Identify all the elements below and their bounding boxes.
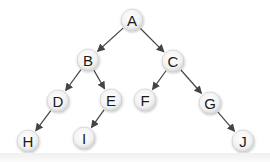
node-label: C — [168, 53, 179, 70]
tree-node-I: I — [73, 127, 95, 149]
tree-node-A: A — [121, 9, 143, 31]
floor-shade — [0, 153, 270, 162]
node-label: F — [140, 92, 149, 109]
tree-node-G: G — [199, 92, 221, 114]
tree-diagram: ABCDEFGHIJ — [0, 0, 270, 162]
edge-A-C — [140, 28, 163, 51]
tree-node-H: H — [17, 130, 39, 152]
edge-E-I — [92, 110, 105, 128]
tree-node-F: F — [134, 89, 156, 111]
nodes-layer: ABCDEFGHIJ — [17, 9, 254, 152]
edge-G-J — [218, 112, 235, 131]
tree-node-B: B — [77, 49, 99, 71]
node-label: I — [82, 130, 86, 147]
edge-B-D — [66, 70, 81, 91]
edge-A-B — [98, 28, 124, 51]
tree-node-C: C — [162, 50, 184, 72]
node-label: J — [239, 133, 247, 150]
node-label: E — [106, 92, 116, 109]
tree-node-D: D — [47, 90, 69, 112]
tree-node-E: E — [100, 89, 122, 111]
edge-D-H — [36, 111, 51, 131]
node-label: H — [23, 133, 34, 150]
edge-C-G — [181, 70, 201, 93]
node-label: D — [53, 93, 64, 110]
tree-node-J: J — [232, 130, 254, 152]
node-label: B — [83, 52, 93, 69]
edge-C-F — [153, 71, 166, 90]
edge-B-E — [94, 70, 105, 88]
node-label: A — [127, 12, 137, 29]
edges-layer — [36, 28, 235, 131]
tree-svg: ABCDEFGHIJ — [0, 0, 270, 162]
node-label: G — [204, 95, 216, 112]
